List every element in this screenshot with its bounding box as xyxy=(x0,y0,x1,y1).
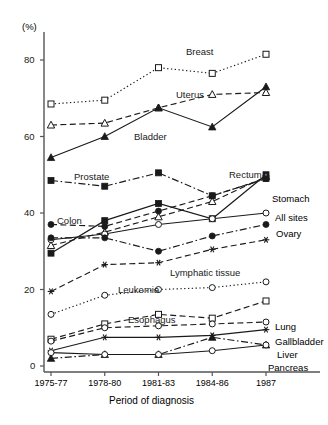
right-label-gallbladder: Gallbladder xyxy=(275,337,324,347)
inline-label-leukemia: Leukemia xyxy=(118,285,159,295)
marker-filled-square xyxy=(102,183,108,189)
marker-asterisk xyxy=(48,289,55,295)
marker-filled-circle xyxy=(156,208,162,214)
series-pancreas xyxy=(48,342,269,358)
marker-open-circle xyxy=(263,210,269,216)
series-bladder xyxy=(47,83,269,161)
inline-label-prostate: Prostate xyxy=(74,172,109,182)
right-label-pancreas: Pancreas xyxy=(268,363,308,373)
marker-open-circle xyxy=(48,311,54,317)
marker-open-square xyxy=(209,70,215,76)
marker-open-circle xyxy=(102,352,108,358)
inline-label-colon: Colon xyxy=(57,216,82,226)
inline-label-rectum: Rectum xyxy=(229,170,262,180)
marker-asterisk xyxy=(155,260,162,266)
marker-filled-circle xyxy=(209,233,215,239)
y-tick-40: 40 xyxy=(24,208,35,218)
marker-filled-circle xyxy=(102,235,108,241)
chart-figure: (%) 020406080 1975-771978-801981-831984-… xyxy=(0,0,328,425)
x-tick-1987: 1987 xyxy=(242,379,290,388)
marker-open-circle xyxy=(209,216,215,222)
marker-filled-square xyxy=(48,177,54,183)
marker-open-circle xyxy=(209,285,215,291)
marker-filled-triangle xyxy=(209,334,216,341)
right-label-liver: Liver xyxy=(277,350,298,360)
marker-filled-square xyxy=(48,250,54,256)
y-tick-80: 80 xyxy=(24,55,35,65)
right-label-all-sites: All sites xyxy=(275,213,308,223)
marker-asterisk xyxy=(263,237,270,243)
marker-open-circle xyxy=(48,338,54,344)
x-axis-title: Period of diagnosis xyxy=(109,396,194,406)
marker-asterisk xyxy=(101,334,108,340)
inline-label-breast: Breast xyxy=(186,47,213,57)
marker-open-square xyxy=(102,97,108,103)
marker-open-triangle xyxy=(209,91,216,98)
marker-asterisk xyxy=(155,334,162,340)
marker-open-circle xyxy=(102,292,108,298)
marker-open-square xyxy=(209,315,215,321)
marker-filled-square xyxy=(102,218,108,224)
right-label-ovary: Ovary xyxy=(276,229,301,239)
x-tick-1984-86: 1984-86 xyxy=(188,379,236,388)
inline-label-bladder: Bladder xyxy=(134,132,167,142)
x-tick-1981-83: 1981-83 xyxy=(135,379,183,388)
marker-open-square xyxy=(263,298,269,304)
marker-filled-square xyxy=(156,170,162,176)
marker-open-circle xyxy=(263,319,269,325)
marker-filled-circle xyxy=(156,248,162,254)
inline-label-uterus: Uterus xyxy=(176,90,204,100)
inline-label-esophagus: Esophagus xyxy=(128,315,176,325)
marker-filled-triangle xyxy=(155,104,162,111)
marker-filled-circle xyxy=(209,193,215,199)
x-tick-1978-80: 1978-80 xyxy=(81,379,129,388)
series-breast xyxy=(48,51,269,107)
marker-filled-circle xyxy=(102,223,108,229)
marker-open-circle xyxy=(209,348,215,354)
marker-filled-circle xyxy=(48,235,54,241)
marker-open-square xyxy=(263,51,269,57)
marker-asterisk xyxy=(209,246,216,252)
marker-asterisk xyxy=(101,262,108,268)
right-label-stomach: Stomach xyxy=(272,194,310,204)
marker-filled-square xyxy=(156,200,162,206)
y-tick-0: 0 xyxy=(30,361,35,371)
marker-open-circle xyxy=(209,321,215,327)
marker-open-circle xyxy=(156,352,162,358)
right-label-lung: Lung xyxy=(275,322,296,332)
marker-open-square xyxy=(48,101,54,107)
marker-open-square xyxy=(156,65,162,71)
inline-label-lymphatic-tissue: Lymphatic tissue xyxy=(170,268,240,278)
series-line xyxy=(51,87,266,158)
marker-filled-triangle xyxy=(101,133,108,140)
marker-open-circle xyxy=(263,279,269,285)
marker-open-circle xyxy=(48,350,54,356)
marker-open-circle xyxy=(263,342,269,348)
marker-filled-triangle xyxy=(262,83,269,90)
marker-filled-circle xyxy=(48,221,54,227)
y-tick-20: 20 xyxy=(24,285,35,295)
marker-filled-circle xyxy=(263,176,269,182)
series-line xyxy=(51,224,266,251)
x-tick-1975-77: 1975-77 xyxy=(27,379,75,388)
marker-asterisk xyxy=(263,327,270,333)
marker-open-circle xyxy=(156,221,162,227)
y-tick-60: 60 xyxy=(24,132,35,142)
marker-filled-circle xyxy=(263,221,269,227)
marker-open-circle xyxy=(102,325,108,331)
series-line xyxy=(51,54,266,104)
y-axis-unit-label: (%) xyxy=(22,22,37,32)
